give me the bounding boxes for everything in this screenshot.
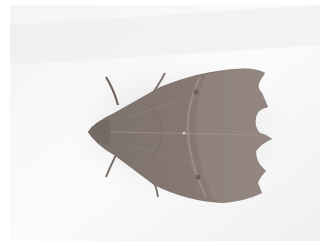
wing-spot — [196, 175, 201, 180]
wing-spot — [194, 90, 199, 95]
photo-frame: moth — [0, 0, 322, 246]
moth-photo — [10, 5, 320, 241]
wing-spot-light — [182, 131, 185, 134]
moth-illustration — [10, 5, 320, 241]
